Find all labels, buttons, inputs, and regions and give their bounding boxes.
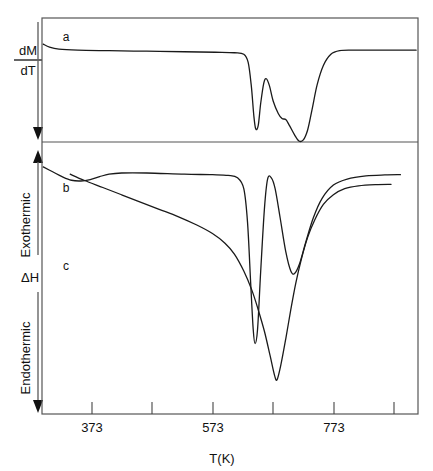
x-tick-label-573: 573: [202, 420, 224, 435]
curve-c-path: [70, 174, 391, 380]
x-axis-title: T(K): [209, 451, 234, 466]
dm-dt-numerator: dM: [19, 43, 37, 58]
x-axis-tick-labels: 373 573 773: [81, 420, 345, 435]
x-axis-ticks: [92, 402, 394, 414]
curve-label-b: b: [63, 181, 70, 195]
figure-container: dM dT Exothermic ΔH Endothermic: [0, 0, 433, 471]
curves-group: [43, 44, 416, 380]
delta-h-ordinate: Exothermic ΔH Endothermic: [18, 150, 43, 413]
curve-b-path: [43, 167, 400, 344]
x-tick-label-773: 773: [323, 420, 345, 435]
left-axis-group: dM dT Exothermic ΔH Endothermic: [14, 22, 43, 413]
curve-label-c: c: [63, 259, 69, 273]
endothermic-label: Endothermic: [18, 321, 33, 394]
x-tick-label-373: 373: [81, 420, 103, 435]
thermal-analysis-figure: dM dT Exothermic ΔH Endothermic: [0, 0, 433, 471]
plot-border: [42, 18, 418, 414]
curve-labels: a b c: [63, 30, 70, 273]
dm-dt-denominator: dT: [20, 63, 35, 78]
exothermic-label: Exothermic: [18, 192, 33, 258]
delta-h-label: ΔH: [21, 270, 39, 285]
curve-label-a: a: [63, 30, 70, 44]
curve-a-path: [43, 44, 416, 141]
plot-frame: [42, 18, 418, 414]
dm-dt-ordinate: dM dT: [14, 22, 43, 140]
